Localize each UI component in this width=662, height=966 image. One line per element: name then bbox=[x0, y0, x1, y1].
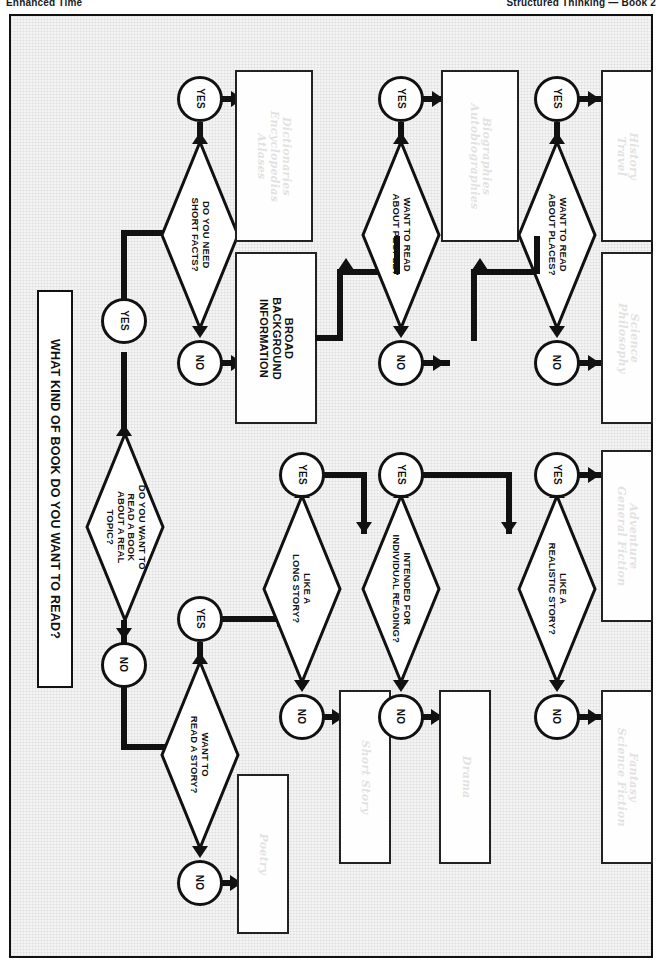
arrow-yes-individual-to-realistic bbox=[501, 522, 517, 534]
branch-yes-individual-label: YES bbox=[395, 465, 406, 486]
result-history-label: HistoryTravel bbox=[615, 132, 640, 179]
branch-yes-long-story-label: YES bbox=[296, 465, 307, 486]
connector-no-root-riser bbox=[121, 686, 127, 750]
flowchart-canvas: WHAT KIND OF BOOK DO YOU WANT TO READ? D… bbox=[9, 14, 653, 958]
branch-yes-long-story[interactable]: YES bbox=[279, 452, 325, 498]
connector-yes-root-riser bbox=[121, 230, 127, 300]
decision-realistic-story[interactable]: LIKE AREALISTIC STORY? bbox=[517, 494, 597, 684]
branch-yes-realistic-label: YES bbox=[551, 465, 562, 486]
result-reference: DictionariesEncyclopediasAtlases bbox=[235, 70, 313, 242]
branch-no-long-story[interactable]: NO bbox=[279, 694, 325, 740]
arrow-no-aboutpeople-out bbox=[433, 355, 445, 371]
branch-yes-about-people-label: YES bbox=[395, 89, 406, 110]
branch-yes-read-story[interactable]: YES bbox=[177, 596, 223, 642]
running-head-left: Enhanced Time bbox=[6, 0, 82, 8]
connector-broadbg-riser bbox=[337, 269, 343, 341]
branch-no-read-story-label: NO bbox=[194, 875, 205, 891]
chart-title-text: WHAT KIND OF BOOK DO YOU WANT TO READ? bbox=[48, 339, 62, 639]
branch-no-short-facts[interactable]: NO bbox=[177, 340, 223, 386]
branch-no-about-people-label: NO bbox=[395, 355, 406, 371]
result-adventure: AdventureGeneral Fiction bbox=[601, 450, 653, 622]
branch-no-root[interactable]: NO bbox=[101, 642, 147, 688]
branch-no-realistic-story[interactable]: NO bbox=[534, 694, 580, 740]
arrow-aboutpeople-yes bbox=[393, 132, 409, 144]
branch-yes-about-places-label: YES bbox=[551, 89, 562, 110]
arrow-no-aboutplaces-to-science bbox=[588, 355, 600, 371]
result-reference-label: DictionariesEncyclopediasAtlases bbox=[256, 110, 293, 201]
arrow-shortfacts-no bbox=[192, 326, 208, 338]
arrow-readstory-no bbox=[192, 846, 208, 858]
connector-root-yes bbox=[121, 352, 127, 434]
result-biography-label: BiographiesAutobiographies bbox=[468, 103, 493, 209]
arrow-aboutplaces-no bbox=[549, 326, 565, 338]
arrow-root-yes bbox=[116, 424, 132, 436]
result-poetry: Poetry bbox=[237, 774, 289, 934]
decision-real-topic[interactable]: DO YOU WANT TOREAD A BOOKABOUT A REALTOP… bbox=[85, 432, 165, 622]
branch-no-short-facts-label: NO bbox=[194, 355, 205, 371]
arrow-topeople-no-corner bbox=[472, 258, 488, 270]
branch-no-read-story[interactable]: NO bbox=[177, 860, 223, 906]
arrow-broadbg-to-aboutpeople bbox=[338, 258, 354, 270]
branch-no-about-people[interactable]: NO bbox=[378, 340, 424, 386]
branch-no-root-label: NO bbox=[118, 657, 129, 673]
result-broad-background: BROADBACKGROUNDINFORMATION bbox=[235, 252, 317, 424]
branch-no-individual-reading[interactable]: NO bbox=[378, 694, 424, 740]
result-science-label: SciencePhilosophy bbox=[615, 303, 640, 374]
arrow-shortfacts-yes bbox=[192, 132, 208, 144]
result-science: SciencePhilosophy bbox=[601, 252, 653, 424]
result-adventure-label: AdventureGeneral Fiction bbox=[615, 486, 640, 586]
branch-yes-realistic-story[interactable]: YES bbox=[534, 452, 580, 498]
branch-yes-short-facts-label: YES bbox=[194, 89, 205, 110]
result-drama: Drama bbox=[439, 690, 491, 864]
decision-about-people[interactable]: WANT TO READABOUT PEOPLE? bbox=[361, 140, 441, 330]
branch-no-individual-label: NO bbox=[395, 709, 406, 725]
result-biography: BiographiesAutobiographies bbox=[441, 70, 519, 242]
branch-no-about-places[interactable]: NO bbox=[534, 340, 580, 386]
connector-aboutpeople-feed bbox=[394, 236, 400, 274]
arrow-root-no bbox=[116, 628, 132, 640]
result-broad-background-label: BROADBACKGROUNDINFORMATION bbox=[258, 297, 295, 380]
result-fantasy-label: FantasyScience Fiction bbox=[615, 727, 640, 826]
decision-long-story[interactable]: LIKE ALONG STORY? bbox=[262, 494, 342, 684]
connector-yes-individual-run bbox=[422, 472, 512, 478]
branch-yes-root-label: YES bbox=[118, 311, 129, 332]
result-poetry-label: Poetry bbox=[257, 833, 269, 874]
arrow-individual-no bbox=[393, 680, 409, 692]
branch-yes-read-story-label: YES bbox=[194, 609, 205, 630]
chart-title-banner: WHAT KIND OF BOOK DO YOU WANT TO READ? bbox=[37, 290, 73, 688]
decision-about-places[interactable]: WANT TO READABOUT PLACES? bbox=[517, 140, 597, 330]
arrow-readstory-yes bbox=[192, 652, 208, 664]
decision-individual-reading[interactable]: INTENDED FORINDIVIDUAL READING? bbox=[361, 494, 441, 684]
branch-yes-short-facts[interactable]: YES bbox=[177, 76, 223, 122]
decision-read-story[interactable]: WANT TOREAD A STORY? bbox=[160, 660, 240, 850]
arrow-aboutplaces-yes bbox=[549, 132, 565, 144]
arrow-longstory-no bbox=[294, 680, 310, 692]
branch-no-long-story-label: NO bbox=[296, 709, 307, 725]
branch-no-about-places-label: NO bbox=[551, 355, 562, 371]
arrow-yes-realistic-to-adventure bbox=[588, 467, 600, 483]
branch-yes-about-places[interactable]: YES bbox=[534, 76, 580, 122]
decision-short-facts[interactable]: DO YOU NEEDSHORT FACTS? bbox=[160, 140, 240, 330]
arrow-no-realistic-to-fantasy bbox=[588, 709, 600, 725]
arrow-aboutpeople-no bbox=[393, 326, 409, 338]
result-short-story-label: Short Story bbox=[359, 740, 371, 814]
result-history: HistoryTravel bbox=[601, 70, 653, 242]
branch-no-realistic-label: NO bbox=[551, 709, 562, 725]
running-head-right: Structured Thinking — Book 2 bbox=[507, 0, 657, 8]
arrow-yes-aboutplaces-to-history bbox=[588, 91, 600, 107]
branch-yes-root[interactable]: YES bbox=[101, 298, 147, 344]
flowchart-page: Enhanced Time Structured Thinking — Book… bbox=[0, 0, 662, 966]
branch-yes-about-people[interactable]: YES bbox=[378, 76, 424, 122]
connector-topeople-no-riser bbox=[471, 269, 477, 341]
branch-yes-individual-reading[interactable]: YES bbox=[378, 452, 424, 498]
arrow-realistic-no bbox=[549, 680, 565, 692]
result-drama-label: Drama bbox=[459, 756, 471, 799]
connector-aboutplaces-feed bbox=[534, 236, 540, 274]
result-fantasy: FantasyScience Fiction bbox=[601, 690, 653, 864]
